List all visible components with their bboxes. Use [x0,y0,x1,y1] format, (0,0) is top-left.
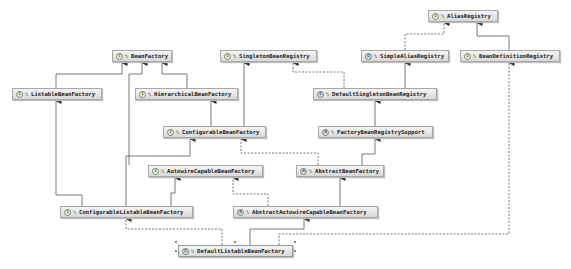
visibility-icon: % [125,53,128,59]
node-autowire-capable-bean-factory[interactable]: I % AutowireCapableBeanFactory [148,165,263,177]
edge-defsingleton-singletonreg [293,63,344,88]
node-label: HierarchicalBeanFactory [154,91,231,97]
class-icon: C [182,248,189,255]
resize-handle-e[interactable] [294,250,296,252]
edge-simplealias-aliasregistry [405,23,444,50]
node-hierarchical-bean-factory[interactable]: I % HierarchicalBeanFactory [135,88,238,100]
node-label: ConfigurableListableBeanFactory [79,209,183,215]
edge-abstractbf-configurable [241,139,318,165]
visibility-icon: % [161,168,164,174]
visibility-icon: % [331,129,334,135]
node-factory-bean-registry-support[interactable]: A % FactoryBeanRegistrySupport [318,126,433,138]
node-bean-factory[interactable]: I % BeanFactory [112,50,172,62]
node-configurable-bean-factory[interactable]: I % ConfigurableBeanFactory [163,126,266,138]
node-label: DefaultSingletonBeanRegistry [332,91,426,97]
node-label: ListableBeanFactory [31,91,95,97]
visibility-icon: % [441,13,444,19]
edge-beandefreg-aliasregistry [477,23,509,50]
resize-handle-nw[interactable] [175,241,177,243]
class-icon: C [317,91,324,98]
visibility-icon: % [73,209,76,215]
visibility-icon: % [233,53,236,59]
interface-icon: I [167,129,174,136]
node-label: ConfigurableBeanFactory [182,129,259,135]
visibility-icon: % [309,168,312,174]
interface-icon: I [64,209,71,216]
visibility-icon: % [176,129,179,135]
class-icon: C [365,53,372,60]
visibility-icon: % [326,91,329,97]
edge-hierarchical-beanfactory [162,63,187,88]
edge-conflistable-listable [56,101,82,206]
interface-icon: I [432,13,439,20]
edges-layer [0,0,571,269]
node-simple-alias-registry[interactable]: C % SimpleAliasRegistry [361,50,449,62]
node-default-listable-bean-factory[interactable]: C % DefaultListableBeanFactory [178,245,293,257]
node-label: AbstractBeanFactory [315,168,379,174]
interface-icon: I [16,91,23,98]
node-abstract-autowire-capable-bean-factory[interactable]: A % AbstractAutowireCapableBeanFactory [233,206,378,218]
abstract-class-icon: A [237,209,244,216]
edge-autowire-beanfactory [129,63,142,165]
node-singleton-bean-registry[interactable]: I % SingletonBeanRegistry [220,50,317,62]
node-default-singleton-bean-registry[interactable]: C % DefaultSingletonBeanRegistry [313,88,437,100]
node-label: SimpleAliasRegistry [380,53,444,59]
node-alias-registry[interactable]: I % AliasRegistry [428,10,498,22]
visibility-icon: % [191,248,194,254]
edge-defaultlistable-conflistable [126,219,222,245]
node-label: AbstractAutowireCapableBeanFactory [252,209,367,215]
node-label: BeanDefinitionRegistry [479,53,553,59]
resize-handle-w[interactable] [175,250,177,252]
node-label: AliasRegistry [447,13,491,19]
node-label: SingletonBeanRegistry [239,53,310,59]
node-label: FactoryBeanRegistrySupport [337,129,425,135]
node-label: AutowireCapableBeanFactory [167,168,255,174]
visibility-icon: % [473,53,476,59]
abstract-class-icon: A [300,168,307,175]
interface-icon: I [139,91,146,98]
edge-abstractautowire-autowire [233,178,268,206]
node-label: BeanFactory [131,53,168,59]
node-label: DefaultListableBeanFactory [197,248,285,254]
edge-listable-beanfactory [56,63,122,88]
diagram-canvas[interactable]: I % AliasRegistry I % BeanFactory I % Si… [0,0,571,269]
interface-icon: I [224,53,231,60]
interface-icon: I [464,53,471,60]
resize-handle-ne[interactable] [294,241,296,243]
node-bean-definition-registry[interactable]: I % BeanDefinitionRegistry [460,50,560,62]
visibility-icon: % [246,209,249,215]
edge-conflistable-autowire [171,178,175,206]
interface-icon: I [116,53,123,60]
visibility-icon: % [148,91,151,97]
node-listable-bean-factory[interactable]: I % ListableBeanFactory [12,88,102,100]
resize-handle-n[interactable] [234,241,236,243]
edge-abstractbf-factorybeanreg [362,139,375,165]
node-abstract-bean-factory[interactable]: A % AbstractBeanFactory [296,165,384,177]
node-configurable-listable-bean-factory[interactable]: I % ConfigurableListableBeanFactory [60,206,193,218]
abstract-class-icon: A [322,129,329,136]
interface-icon: I [152,168,159,175]
visibility-icon: % [25,91,28,97]
visibility-icon: % [374,53,377,59]
